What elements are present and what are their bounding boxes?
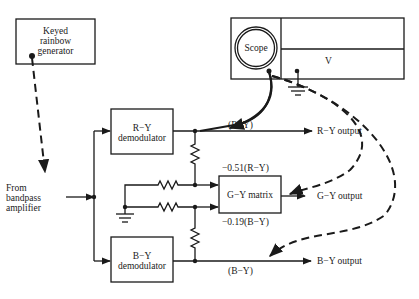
generator-line-2: rainbow xyxy=(16,36,95,46)
gy-output-label: G−Y output xyxy=(317,191,362,201)
input-line-2: bandpass xyxy=(6,193,41,203)
scope-label: Scope xyxy=(236,43,276,53)
by-demod-label: B−Y demodulator xyxy=(111,251,173,271)
generator-line-1: Keyed xyxy=(16,26,95,36)
ry-output-label: R−Y output xyxy=(317,126,362,136)
ry-demod-line-2: demodulator xyxy=(111,133,173,143)
ry-demod-line-1: R−Y xyxy=(111,123,173,133)
input-line-1: From xyxy=(6,183,41,193)
generator-label: Keyed rainbow generator xyxy=(16,26,95,56)
ry-signal-label: (R−Y) xyxy=(228,120,253,130)
generator-line-3: generator xyxy=(16,46,95,56)
ry-demod-label: R−Y demodulator xyxy=(111,123,173,143)
by-output-label: B−Y output xyxy=(317,256,362,266)
gy-matrix-label: G−Y matrix xyxy=(219,190,281,200)
ry-scaled-label: −0.51(R−Y) xyxy=(222,163,269,173)
input-label: From bandpass amplifier xyxy=(6,183,41,213)
input-line-3: amplifier xyxy=(6,203,41,213)
by-demod-line-2: demodulator xyxy=(111,261,173,271)
probe-v-label: V xyxy=(325,56,332,66)
by-signal-label: (B−Y) xyxy=(228,266,253,276)
by-demod-line-1: B−Y xyxy=(111,251,173,261)
by-scaled-label: −0.19(B−Y) xyxy=(222,217,269,227)
